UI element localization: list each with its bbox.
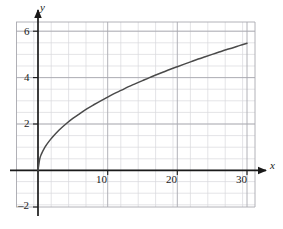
grid-major-horizontal: [16, 22, 255, 207]
grid-minor-horizontal: [16, 31, 255, 205]
x-axis-label: x: [270, 160, 275, 171]
grid-major-vertical: [17, 22, 256, 207]
y-tick-label-minus-2: –2: [18, 200, 29, 211]
x-tick-label-30: 30: [236, 174, 247, 185]
function-curve: [38, 43, 247, 170]
x-tick-label-10: 10: [96, 174, 107, 185]
x-tick-label-20: 20: [166, 174, 177, 185]
plot-canvas: [0, 0, 283, 229]
y-tick-label-2: 2: [24, 118, 30, 129]
y-tick-label-4: 4: [24, 72, 30, 83]
graph-figure: 6 4 2 –2 10 20 30 x y: [0, 0, 283, 229]
y-tick-label-6: 6: [24, 26, 30, 37]
grid-minor-vertical: [17, 22, 243, 207]
y-axis-label: y: [40, 2, 45, 13]
